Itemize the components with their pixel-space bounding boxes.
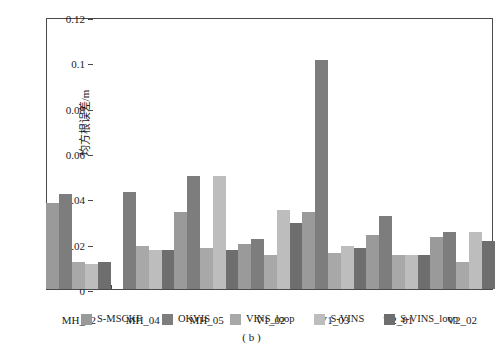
bar — [430, 237, 443, 289]
bar — [72, 262, 85, 289]
y-tick-mark — [88, 291, 93, 292]
legend-swatch-icon — [384, 314, 395, 325]
legend-item[interactable]: S-MSCKF — [81, 312, 142, 326]
bar — [302, 212, 315, 289]
y-axis-tick: 0 — [47, 291, 93, 292]
bar — [366, 235, 379, 289]
bar — [328, 253, 341, 289]
bar — [200, 248, 213, 289]
bar — [98, 262, 111, 289]
bar — [187, 176, 200, 289]
legend-swatch-icon — [162, 314, 173, 325]
bar — [482, 241, 495, 289]
figure-container: 均方根误差/m 00.020.040.060.080.10.12 MH_02MH… — [0, 0, 503, 349]
legend-item[interactable]: OKVIS — [162, 312, 210, 326]
bar — [456, 262, 469, 289]
bar — [277, 210, 290, 289]
bar — [213, 176, 226, 289]
plot-frame: 均方根误差/m 00.020.040.060.080.10.12 MH_02MH… — [46, 18, 493, 290]
bar — [315, 60, 328, 289]
legend-swatch-icon — [314, 314, 325, 325]
chart-legend: S-MSCKFOKVISVINS_loopS-VINSS-VINS_loop — [46, 311, 493, 327]
bar — [174, 212, 187, 289]
legend-label: S-VINS_loop — [400, 312, 458, 326]
bar — [341, 246, 354, 289]
legend-label: S-MSCKF — [97, 312, 142, 326]
legend-label: OKVIS — [178, 312, 210, 326]
bar — [443, 232, 456, 289]
legend-label: S-VINS — [330, 312, 364, 326]
bar — [392, 255, 405, 289]
bar — [59, 194, 72, 289]
legend-item[interactable]: VINS_loop — [230, 312, 294, 326]
legend-swatch-icon — [81, 314, 92, 325]
bar — [251, 239, 264, 289]
bar — [85, 264, 98, 289]
x-tick-mark — [111, 285, 112, 290]
legend-item[interactable]: S-VINS — [314, 312, 364, 326]
bar — [405, 255, 418, 289]
bar — [136, 246, 149, 289]
bar — [46, 203, 59, 289]
figure-caption: ( b ) — [0, 330, 503, 345]
bar — [469, 232, 482, 289]
plot-area — [47, 19, 492, 289]
bar — [149, 250, 162, 289]
bar — [264, 255, 277, 289]
bar — [238, 244, 251, 289]
bar — [123, 192, 136, 289]
legend-swatch-icon — [230, 314, 241, 325]
legend-label: VINS_loop — [246, 312, 294, 326]
legend-item[interactable]: S-VINS_loop — [384, 312, 458, 326]
bar — [379, 216, 392, 289]
